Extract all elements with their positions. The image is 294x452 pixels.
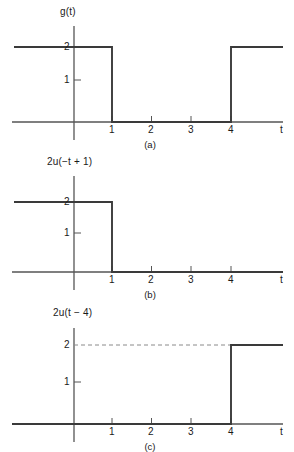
- panel-b-caption: (b): [135, 289, 165, 300]
- panel-b-plot: [0, 152, 294, 300]
- panel-c-x-label: t: [280, 426, 283, 437]
- panel-b-y-tick-1: 1: [64, 227, 70, 238]
- panel-b-x-tick-2: 2: [148, 274, 154, 285]
- panel-a-x-label: t: [280, 124, 283, 135]
- panel-a-x-tick-2: 2: [148, 124, 154, 135]
- panel-a-y-tick-1: 1: [64, 74, 70, 85]
- panel-b-x-tick-3: 3: [188, 274, 194, 285]
- panel-c-y-label: 2u(t − 4): [53, 307, 92, 318]
- panel-b: 2u(−t + 1) 2 1 1 2 3 4 t (b): [0, 152, 294, 300]
- panel-c-x-tick-3: 3: [188, 426, 194, 437]
- panel-a-y-label: g(t): [60, 6, 76, 17]
- panel-c-y-tick-1: 1: [64, 376, 70, 387]
- panel-c-caption: (c): [135, 441, 165, 452]
- signal-trace-2u-neg-t-plus-1: [14, 202, 283, 272]
- panel-c-plot: [0, 302, 294, 452]
- panel-b-x-tick-1: 1: [109, 274, 115, 285]
- panel-a-caption: (a): [135, 139, 165, 150]
- panel-c-x-tick-1: 1: [109, 426, 115, 437]
- signal-trace-g: [14, 47, 283, 122]
- panel-a-x-tick-4: 4: [228, 124, 234, 135]
- panel-a-y-tick-2: 2: [64, 41, 70, 52]
- panel-b-y-tick-2: 2: [64, 196, 70, 207]
- panel-a: g(t) 2 1 1 2 3 4 t (a): [0, 0, 294, 150]
- panel-c-x-tick-2: 2: [148, 426, 154, 437]
- panel-a-x-tick-1: 1: [109, 124, 115, 135]
- panel-a-plot: [0, 0, 294, 150]
- panel-b-y-label: 2u(−t + 1): [47, 156, 92, 167]
- panel-b-x-label: t: [280, 274, 283, 285]
- panel-a-x-tick-3: 3: [188, 124, 194, 135]
- panel-c: 2u(t − 4) 2 1 1 2 3 4 t (c): [0, 302, 294, 452]
- panel-c-y-tick-2: 2: [64, 339, 70, 350]
- panel-c-x-tick-4: 4: [228, 426, 234, 437]
- signal-trace-2u-t-minus-4: [12, 345, 283, 424]
- panel-b-x-tick-4: 4: [228, 274, 234, 285]
